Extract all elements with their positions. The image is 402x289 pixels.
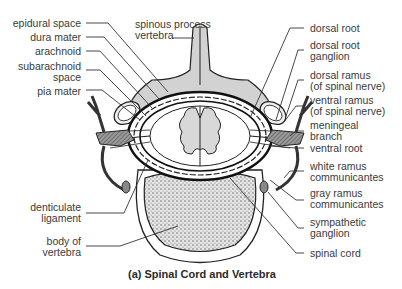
label-gray-ramus: gray ramuscommunicantes <box>310 188 384 209</box>
label-dorsal-root: dorsal root <box>310 23 360 34</box>
vertebral-body-stipple <box>144 172 256 252</box>
label-dorsal-root-ganglion: dorsal rootganglion <box>310 40 360 61</box>
label-sympathetic-ganglion: sympatheticganglion <box>310 217 366 238</box>
label-pia-mater: pia mater <box>37 86 81 97</box>
label-ventral-root: ventral root <box>310 143 363 154</box>
label-denticulate-ligament: denticulateligament <box>30 202 81 223</box>
label-epidural-space: epidural space <box>13 18 81 29</box>
label-dorsal-ramus: dorsal ramus(of spinal nerve) <box>310 70 385 91</box>
label-ventral-ramus: ventral ramus(of spinal nerve) <box>310 95 385 116</box>
label-white-ramus: white ramuscommunicantes <box>310 161 384 182</box>
label-spinous-process: spinous processvertebra <box>135 19 211 40</box>
spinal-cord-vertebra-diagram: epidural space dura mater arachnoid suba… <box>0 0 402 289</box>
label-body-of-vertebra: body ofvertebra <box>42 236 81 257</box>
label-dura-mater: dura mater <box>30 32 81 43</box>
label-meningeal-branch: meningealbranch <box>310 120 358 141</box>
label-subarachnoid-space: subarachnoidspace <box>18 61 81 82</box>
figure-caption: (a) Spinal Cord and Vertebra <box>128 268 276 280</box>
label-spinal-cord: spinal cord <box>310 248 361 259</box>
label-arachnoid: arachnoid <box>35 46 81 57</box>
